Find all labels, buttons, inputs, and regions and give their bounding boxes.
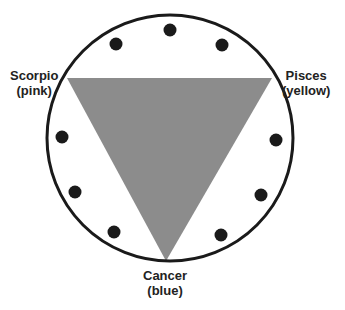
water-trine-triangle: [67, 78, 272, 261]
dot: [108, 226, 121, 239]
dot: [56, 131, 69, 144]
dot: [270, 134, 283, 147]
label-cancer-name: Cancer: [143, 268, 187, 283]
dot: [255, 189, 268, 202]
label-scorpio-name: Scorpio: [10, 68, 58, 83]
label-pisces: Pisces (yellow): [282, 68, 330, 98]
dot: [110, 38, 123, 51]
label-cancer: Cancer (blue): [143, 268, 187, 298]
label-pisces-color: (yellow): [282, 83, 330, 98]
label-scorpio-color: (pink): [10, 83, 58, 98]
label-scorpio: Scorpio (pink): [10, 68, 58, 98]
label-cancer-color: (blue): [143, 283, 187, 298]
dot: [69, 186, 82, 199]
zodiac-circle-diagram: [0, 0, 345, 310]
dot: [164, 24, 177, 37]
dot: [216, 39, 229, 52]
dot: [215, 229, 228, 242]
label-pisces-name: Pisces: [282, 68, 330, 83]
